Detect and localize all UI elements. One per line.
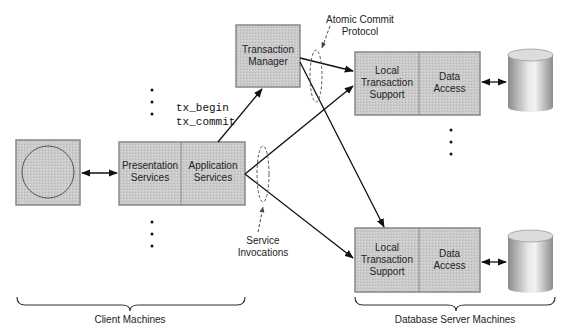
- local-transaction-support-label-top: LocalTransactionSupport: [355, 65, 419, 101]
- more-clients-dots-top: [151, 89, 154, 116]
- client-machines-label: Client Machines: [60, 314, 200, 326]
- more-clients-dots-bottom: [151, 221, 154, 248]
- more-servers-dots: [450, 129, 453, 156]
- server-machines-brace: [355, 297, 555, 311]
- service-invocations-pointer: [258, 207, 263, 232]
- client-terminal-icon: [16, 140, 80, 205]
- service-invocations-ellipse: [257, 146, 269, 202]
- client-machines-brace: [17, 297, 245, 311]
- service-invocations-label: ServiceInvocations: [232, 235, 294, 259]
- local-transaction-support-label-bottom: LocalTransactionSupport: [355, 242, 419, 278]
- app-to-server-top-arrow: [245, 86, 353, 174]
- tx-calls-label: tx_begintx_commit: [176, 101, 235, 129]
- atomic-commit-protocol-label: Atomic CommitProtocol: [320, 14, 400, 38]
- transaction-manager-label: TransactionManager: [236, 44, 300, 68]
- tm-to-server-top-arrow: [300, 58, 353, 71]
- database-server-machines-label: Database Server Machines: [380, 314, 530, 326]
- data-access-label-bottom: DataAccess: [419, 248, 480, 272]
- presentation-services-label: PresentationServices: [119, 160, 181, 184]
- database-icon-top: [508, 49, 553, 112]
- data-access-label-top: DataAccess: [419, 71, 480, 95]
- database-icon-bottom: [508, 230, 553, 293]
- application-services-label: ApplicationServices: [181, 160, 245, 184]
